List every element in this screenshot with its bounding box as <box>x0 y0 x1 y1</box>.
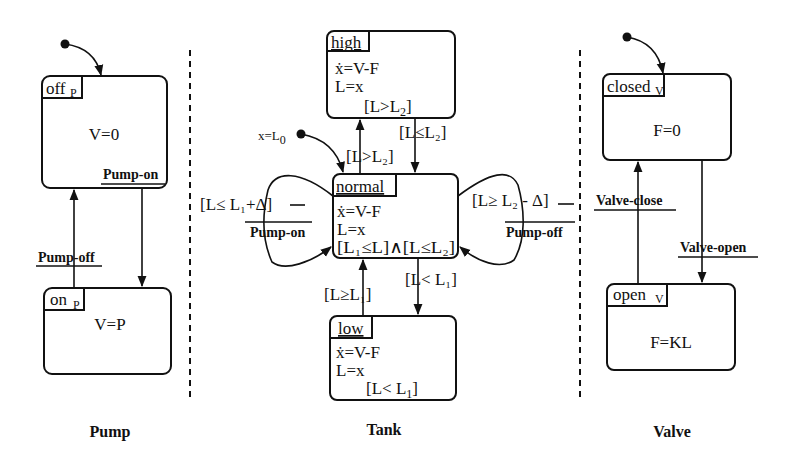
state-flow: F=0 <box>653 121 681 140</box>
valve-automaton: closed V F=0 open V F=KL Valve-close Val… <box>594 33 758 371</box>
state-invariant: [L₁≤L]∧[L≤L₂] <box>337 238 455 257</box>
state-flow: F=KL <box>650 333 692 352</box>
transition-normal-self-left[interactable] <box>264 176 333 266</box>
guard-right-loop: [L≥ L₂ - Δ] <box>472 191 549 210</box>
state-name: open <box>613 285 647 304</box>
event-pump-off: Pump-off <box>38 250 95 265</box>
valve-initial-arrow <box>627 37 663 73</box>
guard-to-low: [L< L₁] <box>405 270 457 289</box>
state-valve-closed[interactable]: closed V F=0 <box>603 74 731 160</box>
state-subscript: V <box>655 84 664 98</box>
tank-automaton: high ẋ=V-F L=x [L>L2] normal ẋ=V-F L=x [… <box>200 31 575 401</box>
state-invariant: [L< L1] <box>366 379 418 401</box>
state-invariant: [L>L2] <box>364 97 412 119</box>
state-name: normal <box>336 177 384 196</box>
transition-normal-self-right[interactable] <box>458 175 523 265</box>
state-assign: L=x <box>335 77 364 96</box>
state-subscript: V <box>655 292 664 306</box>
hybrid-automata-diagram: off P V=0 on P V=P Pump-on Pump-off high… <box>0 0 790 462</box>
state-tank-high[interactable]: high ẋ=V-F L=x [L>L2] <box>327 31 455 119</box>
event-valve-open: Valve-open <box>680 240 747 255</box>
state-name: high <box>331 33 362 52</box>
state-name: low <box>338 319 364 338</box>
pump-initial-arrow <box>65 44 101 75</box>
state-tank-normal[interactable]: normal ẋ=V-F L=x [L₁≤L]∧[L≤L₂] <box>333 174 458 258</box>
event-pump-on: Pump-on <box>103 167 158 182</box>
event-valve-close: Valve-close <box>596 193 662 208</box>
state-valve-open[interactable]: open V F=KL <box>607 284 735 370</box>
pump-automaton: off P V=0 on P V=P Pump-on Pump-off <box>36 40 171 375</box>
state-tank-low[interactable]: low ẋ=V-F L=x [L< L1] <box>330 316 456 401</box>
state-subscript: P <box>73 298 80 312</box>
caption-tank: Tank <box>367 421 402 438</box>
guard-from-high: [L≤L₂] <box>399 123 446 142</box>
event-left-loop: Pump-on <box>250 225 305 240</box>
guard-to-high: [L>L₂] <box>346 147 394 166</box>
guard-from-low: [L≥L₁] <box>324 285 371 304</box>
caption-pump: Pump <box>90 423 131 441</box>
state-flow: ẋ=V-F <box>335 59 379 78</box>
state-flow: V=0 <box>89 125 119 144</box>
caption-valve: Valve <box>653 423 691 440</box>
state-assign: L=x <box>336 361 365 380</box>
guard-left-loop: [L≤ L₁+Δ] <box>200 195 272 214</box>
tank-initial-arrow <box>301 134 343 172</box>
state-assign: L=x <box>337 220 366 239</box>
event-right-loop: Pump-off <box>506 225 563 240</box>
state-name: on <box>50 290 68 309</box>
state-flow: ẋ=V-F <box>336 343 380 362</box>
state-flow: ẋ=V-F <box>337 202 381 221</box>
tank-initial-label: x=L0 <box>258 128 286 147</box>
state-subscript: P <box>70 86 77 100</box>
state-pump-on[interactable]: on P V=P <box>44 288 171 374</box>
state-flow: V=P <box>94 315 125 334</box>
state-name: off <box>46 79 66 98</box>
state-name: closed <box>607 77 651 96</box>
